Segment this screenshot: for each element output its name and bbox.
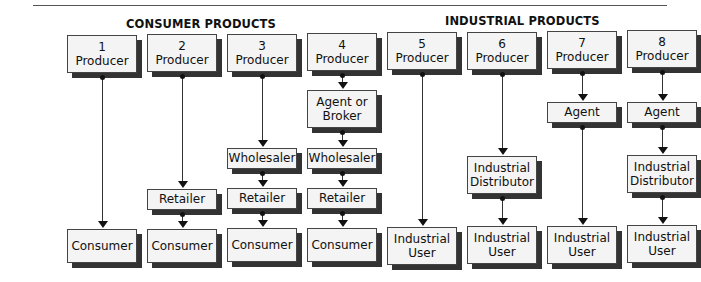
- connector-dot: [500, 72, 505, 77]
- channel-2-node-2-producer: 2Producer: [147, 34, 217, 72]
- node-label: Distributor: [470, 175, 534, 190]
- node-label: Industrial: [394, 232, 450, 247]
- connector-dot: [340, 73, 345, 78]
- node-label: Industrial: [634, 160, 690, 175]
- channel-8-node-industrial-distributor: IndustrialDistributor: [627, 155, 697, 193]
- arrow-down-icon: [338, 140, 348, 147]
- node-label: Industrial: [474, 161, 530, 176]
- node-label: Wholesaler: [229, 151, 296, 166]
- connector-dot: [660, 70, 665, 75]
- connector-dot: [420, 72, 425, 77]
- channel-4-node-wholesaler: Wholesaler: [307, 148, 377, 169]
- connector-dot: [500, 196, 505, 201]
- node-label: Distributor: [630, 174, 694, 189]
- arrow-down-icon: [258, 220, 268, 227]
- node-label: User: [488, 245, 515, 260]
- node-label: Producer: [475, 51, 528, 66]
- connector-dot: [100, 75, 105, 80]
- channel-1-node-consumer: Consumer: [67, 229, 137, 263]
- channel-5-node-industrial-user: IndustrialUser: [387, 227, 457, 265]
- channel-4-node-retailer: Retailer: [307, 188, 377, 209]
- distribution-channels-diagram: CONSUMER PRODUCTS INDUSTRIAL PRODUCTS 1P…: [0, 0, 701, 282]
- node-label: Producer: [75, 54, 128, 69]
- connector-dot: [180, 74, 185, 79]
- node-label: 5: [418, 37, 426, 52]
- channel-7-node-7-producer: 7Producer: [547, 31, 617, 69]
- connector-line: [502, 74, 503, 149]
- arrow-down-icon: [338, 82, 348, 89]
- consumer-products-heading: CONSUMER PRODUCTS: [126, 17, 276, 31]
- arrow-down-icon: [258, 140, 268, 147]
- node-label: 2: [178, 39, 186, 54]
- node-label: Producer: [235, 53, 288, 68]
- connector-line: [662, 127, 663, 148]
- channel-3-node-3-producer: 3Producer: [227, 34, 297, 72]
- arrow-down-icon: [178, 181, 188, 188]
- node-label: User: [648, 244, 675, 259]
- connector-line: [102, 77, 103, 222]
- connector-dot: [260, 74, 265, 79]
- arrow-down-icon: [338, 180, 348, 187]
- channel-5-node-5-producer: 5Producer: [387, 32, 457, 70]
- arrow-down-icon: [578, 94, 588, 101]
- connector-line: [502, 198, 503, 219]
- channel-7-node-industrial-user: IndustrialUser: [547, 226, 617, 264]
- node-label: Wholesaler: [309, 151, 376, 166]
- connector-line: [582, 73, 583, 95]
- connector-dot: [340, 130, 345, 135]
- industrial-products-heading: INDUSTRIAL PRODUCTS: [445, 14, 600, 28]
- node-label: 8: [658, 35, 666, 50]
- arrow-down-icon: [578, 218, 588, 225]
- top-rule: [33, 5, 667, 6]
- connector-dot: [340, 171, 345, 176]
- connector-dot: [260, 171, 265, 176]
- node-label: Retailer: [319, 191, 365, 206]
- connector-dot: [660, 125, 665, 130]
- connector-dot: [660, 195, 665, 200]
- node-label: Agent: [644, 105, 680, 120]
- channel-8-node-8-producer: 8Producer: [627, 30, 697, 68]
- channel-6-node-industrial-user: IndustrialUser: [467, 226, 537, 264]
- channel-4-node-agent-or-broker: Agent orBroker: [307, 90, 377, 128]
- node-label: Retailer: [239, 191, 285, 206]
- node-label: Producer: [635, 49, 688, 64]
- node-label: 6: [498, 37, 506, 52]
- node-label: 3: [258, 39, 266, 54]
- node-label: Producer: [555, 50, 608, 65]
- arrow-down-icon: [418, 219, 428, 226]
- arrow-down-icon: [498, 218, 508, 225]
- connector-line: [262, 76, 263, 141]
- node-label: Industrial: [634, 230, 690, 245]
- connector-line: [662, 72, 663, 95]
- node-label: 4: [338, 38, 346, 53]
- connector-line: [582, 127, 583, 219]
- node-label: Industrial: [474, 231, 530, 246]
- node-label: 1: [98, 40, 106, 55]
- node-label: Producer: [395, 51, 448, 66]
- node-label: Agent: [564, 105, 600, 120]
- channel-3-node-wholesaler: Wholesaler: [227, 148, 297, 169]
- arrow-down-icon: [498, 148, 508, 155]
- channel-4-node-4-producer: 4Producer: [307, 33, 377, 71]
- channel-6-node-industrial-distributor: IndustrialDistributor: [467, 156, 537, 194]
- connector-dot: [180, 212, 185, 217]
- connector-dot: [260, 211, 265, 216]
- node-label: Consumer: [151, 239, 212, 254]
- connector-dot: [580, 71, 585, 76]
- arrow-down-icon: [658, 147, 668, 154]
- arrow-down-icon: [658, 94, 668, 101]
- node-label: 7: [578, 36, 586, 51]
- node-label: Producer: [155, 53, 208, 68]
- channel-2-node-retailer: Retailer: [147, 189, 217, 210]
- channel-2-node-consumer: Consumer: [147, 229, 217, 263]
- channel-7-node-agent: Agent: [547, 102, 617, 123]
- node-label: Consumer: [231, 238, 292, 253]
- arrow-down-icon: [178, 221, 188, 228]
- node-label: Industrial: [554, 231, 610, 246]
- node-label: Producer: [315, 52, 368, 67]
- node-label: Consumer: [71, 239, 132, 254]
- node-label: Consumer: [311, 238, 372, 253]
- node-label: Retailer: [159, 192, 205, 207]
- arrow-down-icon: [258, 180, 268, 187]
- node-label: User: [568, 245, 595, 260]
